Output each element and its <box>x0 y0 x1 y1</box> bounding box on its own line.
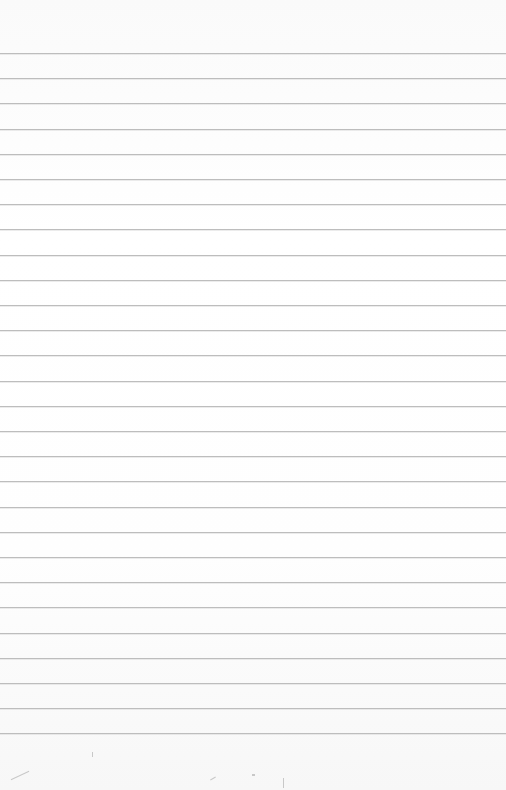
ruled-line <box>0 255 506 256</box>
ruled-line <box>0 229 506 230</box>
ruled-line <box>0 204 506 205</box>
paper-speck <box>92 752 93 757</box>
lined-paper <box>0 0 506 790</box>
ruled-line <box>0 53 506 54</box>
ruled-line <box>0 406 506 407</box>
ruled-line <box>0 733 506 734</box>
ruled-line <box>0 633 506 634</box>
ruled-line <box>0 431 506 432</box>
ruled-line <box>0 179 506 180</box>
paper-speck <box>210 777 216 781</box>
ruled-line <box>0 78 506 79</box>
ruled-line <box>0 607 506 608</box>
ruled-line <box>0 305 506 306</box>
ruled-line <box>0 355 506 356</box>
ruled-line <box>0 481 506 482</box>
ruled-line <box>0 708 506 709</box>
ruled-line <box>0 683 506 684</box>
ruled-line <box>0 129 506 130</box>
ruled-line <box>0 582 506 583</box>
paper-speck <box>11 771 30 780</box>
ruled-line <box>0 456 506 457</box>
ruled-line <box>0 557 506 558</box>
ruled-line <box>0 330 506 331</box>
ruled-line <box>0 658 506 659</box>
ruled-line <box>0 532 506 533</box>
paper-speck <box>283 778 284 788</box>
ruled-line <box>0 154 506 155</box>
ruled-line <box>0 103 506 104</box>
ruled-line <box>0 507 506 508</box>
ruled-line <box>0 381 506 382</box>
ruled-line <box>0 280 506 281</box>
paper-speck <box>252 774 255 776</box>
